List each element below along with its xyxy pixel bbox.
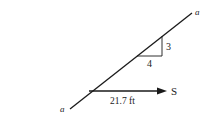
slope-run-label: 4 [147,58,152,69]
arrowhead-icon [157,88,167,95]
vector-label: S [171,85,177,97]
label-a-end: a [195,7,200,17]
label-a-start: a [60,104,65,114]
diagram-canvas: a a 3 4 S 21.7 ft [0,0,205,121]
slope-rise-label: 3 [166,41,171,52]
distance-label: 21.7 ft [110,96,135,106]
